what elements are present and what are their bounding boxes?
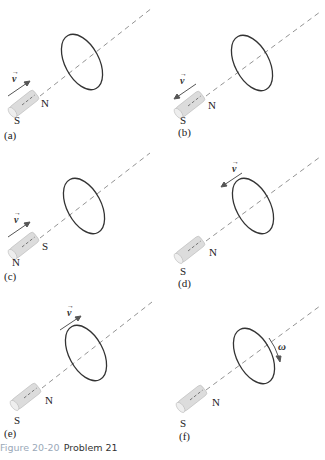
velocity-label: v→ [180, 76, 184, 86]
panel-tag: (a) [4, 130, 16, 141]
panel-tag: (b) [178, 127, 191, 138]
caption-problem-text: Problem 21 [64, 442, 118, 453]
pole-label-right: N [208, 100, 216, 111]
velocity-label: v→ [14, 215, 18, 225]
pole-label-left: S [180, 418, 186, 429]
pole-label-left: S [14, 115, 20, 126]
axis-line [206, 157, 320, 241]
figure-caption: Figure 20-20Problem 21 [0, 443, 118, 453]
diagram-e [0, 290, 162, 435]
axis-line [206, 12, 320, 96]
panel-tag: (d) [178, 278, 191, 289]
caption-figure-label: Figure 20-20 [0, 442, 60, 453]
bar-magnet [174, 384, 207, 414]
panel-b: v→ N S (b) [162, 0, 324, 145]
pole-label-right: N [209, 247, 217, 258]
axis-line [206, 306, 320, 390]
panel-d: v→ N S (d) [162, 145, 324, 290]
wire-loop [53, 28, 111, 97]
diagram-f [162, 290, 324, 435]
panel-e: v→ N S (e) [0, 290, 162, 435]
wire-loop [55, 172, 113, 241]
angular-velocity-label: ω [278, 341, 286, 352]
diagram-c [0, 145, 162, 290]
velocity-label: v→ [67, 308, 71, 318]
pole-label-right: N [45, 395, 53, 406]
diagram-d [162, 145, 324, 290]
panel-tag: (e) [4, 428, 16, 439]
diagram-a [0, 0, 162, 145]
wire-loop [57, 319, 115, 388]
pole-label-right: N [212, 397, 220, 408]
panel-f: ω N S (f) [162, 290, 324, 435]
velocity-label: v→ [12, 74, 16, 84]
bar-magnet [172, 235, 205, 265]
panel-tag: (c) [4, 271, 16, 282]
pole-label-left: S [14, 415, 20, 426]
pole-label-right: S [42, 241, 48, 252]
velocity-label: v→ [232, 164, 236, 174]
bar-magnet [8, 382, 41, 412]
panel-c: v→ S N (c) [0, 145, 162, 290]
pole-label-left: N [12, 257, 20, 268]
axis-line [40, 153, 150, 238]
panel-tag: (f) [179, 431, 190, 442]
axis-line [42, 302, 152, 388]
pole-label-right: N [41, 98, 49, 109]
wire-loop [225, 322, 283, 391]
wire-loop [223, 29, 281, 98]
pole-label-left: S [180, 115, 186, 126]
pole-label-left: S [180, 266, 186, 277]
panel-a: v→ N S (a) [0, 0, 162, 145]
velocity-arrow [8, 222, 30, 237]
